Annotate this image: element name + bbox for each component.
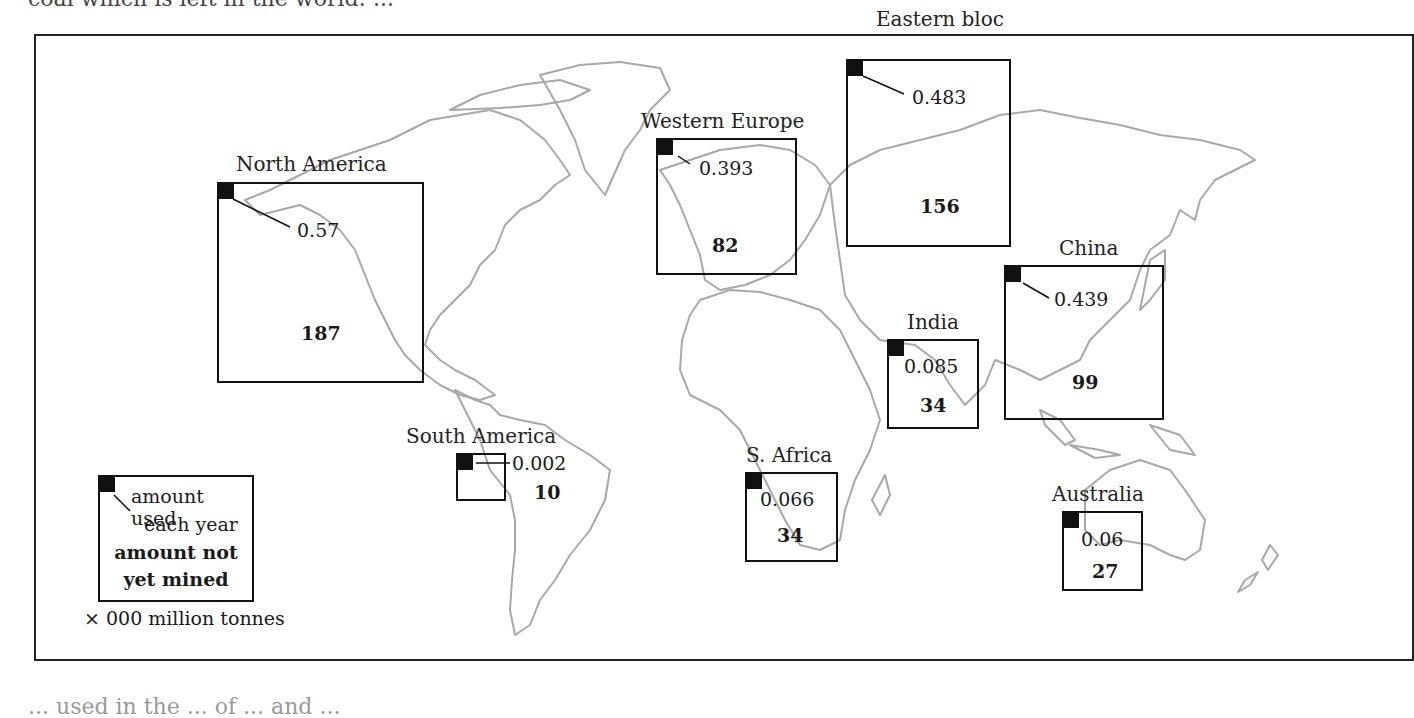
legend-reserve-label-1: amount not [100, 541, 252, 563]
region-name: Australia [1052, 482, 1144, 506]
annual-usage: 0.06 [1081, 528, 1123, 550]
annual-usage: 0.066 [760, 488, 814, 510]
region-name: S. Africa [746, 443, 832, 467]
reserves-value: 34 [777, 524, 803, 546]
annual-usage: 0.002 [512, 452, 566, 474]
reserves-value: 10 [534, 481, 560, 503]
legend-reserve-label-2: yet mined [100, 568, 252, 590]
legend-box: amount used each year amount not yet min… [98, 475, 254, 602]
legend-used-label-2: each year [144, 513, 238, 535]
units-label: × 000 million tonnes [84, 607, 285, 629]
reserve-box [745, 472, 838, 562]
following-text: ... used in the ... of ... and ... [28, 694, 340, 718]
usage-marker [747, 474, 762, 489]
reserves-value: 27 [1092, 560, 1118, 582]
usage-marker [1064, 513, 1079, 528]
